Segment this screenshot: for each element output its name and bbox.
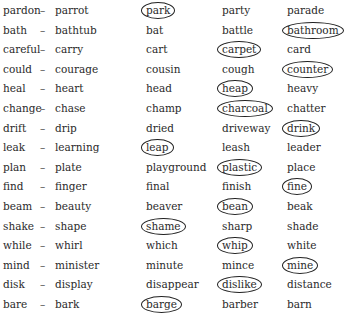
circled-option-word[interactable]: park [141,2,175,19]
worksheet-row: drift – drip dried driveway drink [0,119,330,138]
dash-separator: – [40,197,45,216]
option-word[interactable]: beaver [146,197,182,216]
circled-option-word[interactable]: bean [217,198,253,215]
option-word[interactable]: cart [146,40,167,59]
pair-word: display [55,275,93,294]
option-word[interactable]: driveway [222,119,270,138]
option-word[interactable]: which [146,236,178,255]
base-word: plan [3,158,26,177]
worksheet-row: pardon – parrot park party parade [0,1,330,20]
option-word[interactable]: dried [146,119,174,138]
dash-separator: – [40,1,45,20]
option-word[interactable]: barn [287,295,312,314]
pair-word: parrot [55,1,89,20]
worksheet-row: while – whirl which whip white [0,236,330,255]
worksheet-row: could – courage cousin cough counter [0,60,330,79]
dash-separator: – [40,60,45,79]
option-word[interactable]: playground [146,158,207,177]
base-word: change [3,99,42,118]
base-word: mind [3,256,30,275]
option-word[interactable]: card [287,40,311,59]
worksheet-row: mind – minister minute mince mine [0,256,330,275]
dash-separator: – [40,177,45,196]
pair-word: drip [55,119,77,138]
option-word[interactable]: champ [146,99,182,118]
option-word[interactable]: place [287,158,315,177]
base-word: pardon [3,1,41,20]
pair-word: learning [55,138,99,157]
dash-separator: – [40,295,45,314]
circled-option-word[interactable]: dislike [217,276,262,293]
option-word[interactable]: disappear [146,275,199,294]
circled-option-word[interactable]: leap [141,139,174,156]
dash-separator: – [40,21,45,40]
option-word[interactable]: battle [222,21,253,40]
circled-option-word[interactable]: drink [282,120,320,137]
base-word: bare [3,295,27,314]
circled-option-word[interactable]: shame [141,218,186,235]
circled-option-word[interactable]: carpet [217,41,261,58]
option-word[interactable]: minute [146,256,183,275]
pair-word: bark [55,295,79,314]
option-word[interactable]: sharp [222,217,252,236]
pair-word: carry [55,40,83,59]
circled-option-word[interactable]: barge [141,296,182,313]
circled-option-word[interactable]: bathroom [282,22,344,39]
worksheet-row: bath – bathtub bat battle bathroom [0,21,330,40]
base-word: could [3,60,32,79]
option-word[interactable]: cousin [146,60,180,79]
base-word: careful [3,40,40,59]
option-word[interactable]: distance [287,275,332,294]
option-word[interactable]: cough [222,60,254,79]
dash-separator: – [40,217,45,236]
option-word[interactable]: barber [222,295,258,314]
circled-option-word[interactable]: counter [282,61,333,78]
worksheet-row: change – chase champ charcoal chatter [0,99,330,118]
pair-word: whirl [55,236,83,255]
circled-option-word[interactable]: whip [217,237,253,254]
option-word[interactable]: chatter [287,99,326,118]
base-word: drift [3,119,26,138]
base-word: beam [3,197,32,216]
base-word: while [3,236,32,255]
pair-word: bathtub [55,21,97,40]
option-word[interactable]: shade [287,217,318,236]
base-word: shake [3,217,34,236]
option-word[interactable]: parade [287,1,324,20]
pair-word: heart [55,79,83,98]
pair-word: plate [55,158,82,177]
option-word[interactable]: white [287,236,317,255]
option-word[interactable]: heavy [287,79,318,98]
base-word: find [3,177,24,196]
pair-word: courage [55,60,98,79]
worksheet-row: bare – bark barge barber barn [0,295,330,314]
worksheet-row: plan – plate playground plastic place [0,158,330,177]
option-word[interactable]: leader [287,138,321,157]
worksheet-row: disk – display disappear dislike distanc… [0,275,330,294]
pair-word: minister [55,256,99,275]
option-word[interactable]: finish [222,177,251,196]
option-word[interactable]: head [146,79,172,98]
worksheet-row: leak – learning leap leash leader [0,138,330,157]
circled-option-word[interactable]: heap [217,80,253,97]
circled-option-word[interactable]: mine [282,257,318,274]
dash-separator: – [40,158,45,177]
option-word[interactable]: beak [287,197,313,216]
option-word[interactable]: final [146,177,169,196]
worksheet-row: careful – carry cart carpet card [0,40,330,59]
worksheet-row: beam – beauty beaver bean beak [0,197,330,216]
dash-separator: – [40,99,45,118]
circled-option-word[interactable]: charcoal [217,100,273,117]
pair-word: beauty [55,197,91,216]
circled-option-word[interactable]: fine [282,178,312,195]
base-word: heal [3,79,26,98]
option-word[interactable]: bat [146,21,163,40]
circled-option-word[interactable]: plastic [217,159,262,176]
option-word[interactable]: party [222,1,250,20]
worksheet-row: heal – heart head heap heavy [0,79,330,98]
option-word[interactable]: leash [222,138,250,157]
dash-separator: – [40,119,45,138]
option-word[interactable]: mince [222,256,254,275]
dash-separator: – [40,79,45,98]
pair-word: finger [55,177,87,196]
